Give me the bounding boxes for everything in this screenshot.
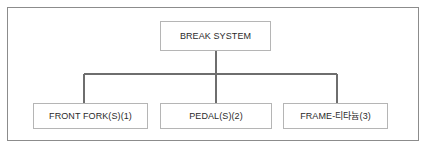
node-child-pedal[interactable]: PEDAL(S)(2): [160, 103, 272, 129]
node-child-label: PEDAL(S)(2): [189, 111, 243, 122]
node-child-front-fork[interactable]: FRONT FORK(S)(1): [33, 103, 148, 129]
node-root-break-system[interactable]: BREAK SYSTEM: [160, 21, 271, 51]
node-root-label: BREAK SYSTEM: [180, 31, 251, 42]
node-child-label: FRONT FORK(S)(1): [49, 111, 132, 122]
node-child-frame-titanium[interactable]: FRAME-티타늄(3): [283, 103, 388, 129]
node-child-label: FRAME-티타늄(3): [300, 111, 371, 122]
diagram-canvas: BREAK SYSTEM FRONT FORK(S)(1) PEDAL(S)(2…: [0, 0, 427, 151]
